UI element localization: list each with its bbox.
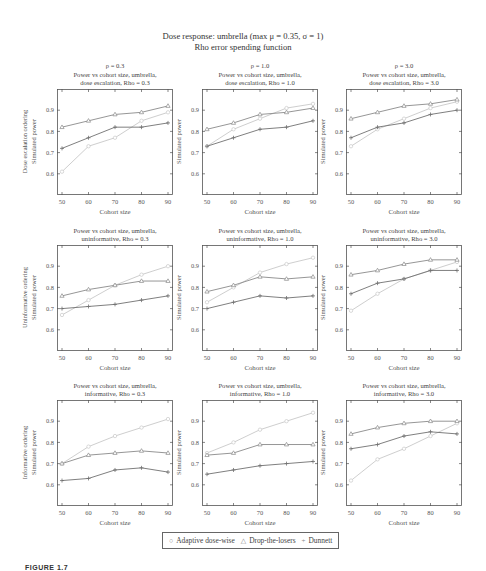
x-tick-label: 60	[374, 509, 380, 516]
x-axis-label: Cohort size	[57, 364, 173, 371]
y-axis-label: Simulated power	[175, 258, 182, 338]
y-tick-label: 0.8	[46, 128, 54, 135]
series-line-circle	[351, 262, 457, 311]
plus-marker-icon	[87, 304, 91, 308]
x-tick-label: 70	[112, 198, 118, 205]
y-tick-label: 0.9	[46, 262, 54, 269]
line-chart: 0.60.70.80.95060708090	[202, 400, 318, 506]
circle-marker-icon	[285, 262, 288, 265]
panel-title: Power vs cohort size, umbrella,dose esca…	[182, 71, 338, 88]
plot-frame	[203, 401, 318, 506]
circle-marker-icon	[232, 441, 235, 444]
circle-marker-icon: ○	[169, 537, 173, 545]
x-tick-label: 90	[310, 354, 316, 361]
line-chart: 0.60.70.80.95060708090	[346, 89, 462, 195]
series-line-circle	[207, 413, 313, 453]
plus-marker-icon	[349, 292, 353, 296]
line-chart: 0.60.70.80.95060708090	[346, 245, 462, 351]
plus-marker-icon	[140, 298, 144, 302]
circle-marker-icon	[311, 256, 314, 259]
x-axis-label: Cohort size	[346, 519, 462, 526]
plus-marker-icon	[285, 462, 289, 466]
plus-marker-icon	[402, 121, 406, 125]
y-tick-label: 0.6	[191, 326, 199, 333]
plus-marker-icon	[205, 307, 209, 311]
x-tick-label: 50	[204, 354, 210, 361]
x-tick-label: 80	[283, 509, 289, 516]
row-label: Dose escalation ordering	[21, 92, 28, 192]
x-tick-label: 80	[138, 509, 144, 516]
plus-marker-icon	[232, 136, 236, 140]
circle-marker-icon	[205, 301, 208, 304]
y-tick-label: 0.7	[46, 305, 55, 312]
plus-marker-icon	[285, 296, 289, 300]
x-tick-label: 70	[112, 509, 118, 516]
panel-title-line1: Power vs cohort size, umbrella,	[326, 71, 482, 79]
plus-marker-icon	[258, 127, 262, 131]
x-tick-label: 90	[165, 198, 171, 205]
panel-title-line1: Power vs cohort size, umbrella,	[37, 71, 193, 79]
panel-title-line1: Power vs cohort size, umbrella,	[37, 227, 193, 235]
x-tick-label: 80	[138, 198, 144, 205]
panel-title-line2: informative, Rho = 1.0	[182, 390, 338, 398]
x-tick-label: 80	[283, 354, 289, 361]
x-tick-label: 60	[85, 198, 91, 205]
figure-title-line1: Dose response: umbrella (max μ = 0.35, σ…	[0, 31, 486, 42]
legend-item-adaptive: ○ Adaptive dose-wise	[169, 536, 235, 545]
panel-title-line1: Power vs cohort size, umbrella,	[182, 382, 338, 390]
y-tick-label: 0.9	[191, 262, 199, 269]
x-tick-label: 50	[204, 509, 210, 516]
plus-marker-icon	[140, 466, 144, 470]
x-tick-label: 80	[427, 198, 433, 205]
y-tick-label: 0.7	[335, 305, 344, 312]
plus-marker-icon	[205, 472, 209, 476]
legend-label: Dunnett	[308, 536, 332, 545]
circle-marker-icon	[402, 447, 405, 450]
y-tick-label: 0.9	[46, 417, 54, 424]
panel-title-line2: dose escalation, Rho = 1.0	[182, 79, 338, 87]
y-tick-label: 0.8	[335, 439, 343, 446]
plus-marker-icon	[429, 430, 433, 434]
circle-marker-icon	[258, 117, 261, 120]
y-axis-label: Simulated power	[175, 413, 182, 493]
plus-marker-icon	[285, 125, 289, 129]
y-tick-label: 0.6	[191, 481, 199, 488]
x-axis-label: Cohort size	[202, 519, 318, 526]
circle-marker-icon	[87, 298, 90, 301]
x-tick-label: 60	[85, 509, 91, 516]
circle-marker-icon	[258, 428, 261, 431]
plot-frame	[58, 90, 173, 195]
y-tick-label: 0.6	[46, 170, 54, 177]
circle-marker-icon	[311, 411, 314, 414]
x-tick-label: 50	[59, 354, 65, 361]
circle-marker-icon	[87, 145, 90, 148]
y-axis-label: Simulated power	[30, 102, 37, 182]
x-tick-label: 50	[348, 198, 354, 205]
plus-marker-icon	[349, 447, 353, 451]
circle-marker-icon	[232, 128, 235, 131]
plus-marker-icon	[166, 294, 170, 298]
line-chart: 0.60.70.80.95060708090	[57, 89, 173, 195]
y-axis-label: Simulated power	[175, 102, 182, 182]
column-header: ρ = 3.0	[326, 62, 482, 70]
circle-marker-icon	[349, 145, 352, 148]
y-tick-label: 0.7	[335, 149, 344, 156]
panel-title-line2: dose escalation, Rho = 3.0	[326, 79, 482, 87]
panel-title-line1: Power vs cohort size, umbrella,	[326, 227, 482, 235]
circle-marker-icon	[285, 106, 288, 109]
y-tick-label: 0.6	[335, 326, 343, 333]
y-tick-label: 0.8	[335, 128, 343, 135]
circle-marker-icon	[113, 434, 116, 437]
legend: ○ Adaptive dose-wise △ Drop-the-losers +…	[162, 532, 339, 549]
y-axis-label: Simulated power	[30, 258, 37, 338]
y-tick-label: 0.8	[191, 439, 199, 446]
x-axis-label: Cohort size	[346, 364, 462, 371]
panel-title-line2: informative, Rho = 0.3	[37, 390, 193, 398]
plus-marker-icon	[455, 432, 459, 436]
series-line-triangle	[351, 100, 457, 119]
column-header: ρ = 1.0	[182, 62, 338, 70]
plus-marker-icon	[258, 464, 262, 468]
y-tick-label: 0.9	[335, 417, 343, 424]
circle-marker-icon	[349, 309, 352, 312]
legend-item-drop-the-losers: △ Drop-the-losers	[241, 536, 296, 545]
